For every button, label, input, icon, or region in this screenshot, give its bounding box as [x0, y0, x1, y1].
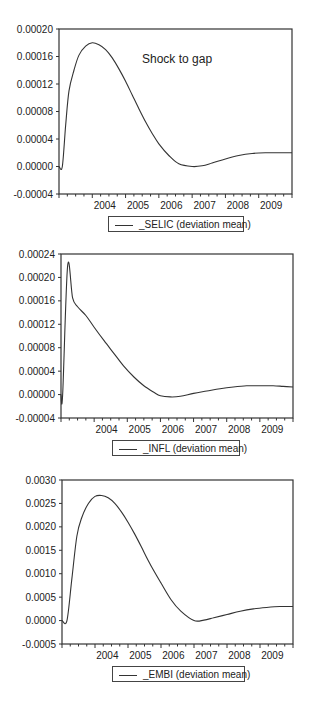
selic-chart: 0.000200.000160.000120.000080.000040.000…: [0, 0, 311, 240]
x-tick-label: 2004: [95, 424, 118, 435]
x-tick-label: 2009: [261, 424, 284, 435]
y-tick-label: 0.0000: [25, 615, 56, 626]
x-tick-label: 2005: [127, 200, 150, 210]
plot-frame: [62, 480, 293, 644]
y-tick-label: 0.00012: [19, 319, 56, 330]
selic-plot: 0.000200.000160.000120.000080.000040.000…: [0, 0, 311, 210]
y-tick-label: 0.0020: [25, 521, 56, 532]
x-tick-label: 2004: [96, 650, 119, 661]
y-tick-label: 0.0005: [25, 592, 56, 603]
chart-annotation: Shock to gap: [142, 52, 212, 66]
series-line: [62, 495, 293, 623]
plot-frame: [61, 254, 293, 418]
y-tick-label: -0.0005: [22, 639, 56, 650]
y-tick-label: 0.00004: [17, 134, 54, 145]
x-tick-label: 2006: [162, 650, 185, 661]
y-tick-label: 0.00016: [19, 295, 56, 306]
y-tick-label: 0.00008: [17, 106, 54, 117]
y-tick-label: 0.00016: [17, 51, 54, 62]
y-tick-label: -0.00004: [14, 189, 54, 200]
selic-legend: _SELIC (deviation mean): [108, 216, 244, 232]
x-tick-label: 2006: [160, 200, 183, 210]
y-tick-label: -0.00004: [16, 413, 56, 424]
x-tick-label: 2008: [228, 650, 251, 661]
y-tick-label: 0.00020: [17, 24, 54, 35]
series-line: [61, 262, 293, 404]
infl-legend: _INFL (deviation mean): [112, 440, 240, 456]
y-tick-label: 0.00000: [19, 389, 56, 400]
y-tick-label: 0.00008: [19, 342, 56, 353]
x-tick-label: 2007: [194, 200, 217, 210]
legend-label: _SELIC (deviation mean): [139, 219, 251, 230]
y-tick-label: 0.0015: [25, 545, 56, 556]
legend-line-swatch: [115, 225, 133, 226]
x-tick-label: 2007: [195, 650, 218, 661]
y-tick-label: 0.00012: [17, 79, 54, 90]
legend-label: _EMBI (deviation mean): [143, 669, 250, 680]
x-tick-label: 2005: [129, 424, 152, 435]
embi-legend: _EMBI (deviation mean): [112, 666, 245, 682]
x-tick-label: 2008: [228, 424, 251, 435]
y-tick-label: 0.00004: [19, 366, 56, 377]
legend-line-swatch: [119, 675, 137, 676]
x-tick-label: 2009: [261, 650, 284, 661]
x-tick-label: 2006: [162, 424, 185, 435]
x-tick-label: 2007: [195, 424, 218, 435]
y-tick-label: 0.00000: [17, 161, 54, 172]
y-tick-label: 0.0025: [25, 498, 56, 509]
y-tick-label: 0.00020: [19, 272, 56, 283]
y-tick-label: 0.00024: [19, 249, 56, 260]
x-tick-label: 2009: [260, 200, 283, 210]
legend-label: _INFL (deviation mean): [143, 443, 247, 454]
y-tick-label: 0.0030: [25, 475, 56, 486]
x-tick-label: 2008: [227, 200, 250, 210]
x-tick-label: 2005: [129, 650, 152, 661]
x-tick-label: 2004: [94, 200, 117, 210]
legend-line-swatch: [119, 449, 137, 450]
y-tick-label: 0.0010: [25, 568, 56, 579]
